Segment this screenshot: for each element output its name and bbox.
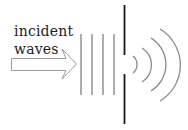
arc-3 [151,38,166,91]
diffracted-wavefronts [133,29,180,101]
arc-1 [133,56,137,73]
diagram-graphics [0,0,188,130]
arc-2 [142,48,151,82]
arrow-icon [12,49,77,79]
diffraction-diagram: incident waves [0,0,188,130]
incident-wavefronts [81,34,114,95]
arc-4 [160,29,180,101]
